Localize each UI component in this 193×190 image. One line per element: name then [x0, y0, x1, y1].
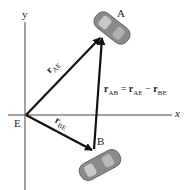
- point-label-b: B: [97, 136, 104, 147]
- point-label-e: E: [14, 118, 21, 129]
- point-label-a: A: [117, 8, 125, 19]
- vector-r-ae: [26, 38, 100, 115]
- y-axis-label: y: [22, 9, 28, 20]
- relative-position-diagram: y x E A B rAE rBE rAB = rAE − rBE: [0, 0, 193, 190]
- equation-r-ab: rAB = rAE − rBE: [104, 84, 167, 97]
- x-axis-label: x: [175, 108, 180, 119]
- car-b-icon: [76, 147, 123, 184]
- vector-r-ab: [94, 38, 102, 149]
